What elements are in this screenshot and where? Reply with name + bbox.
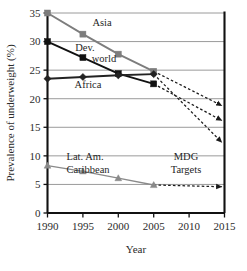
tick-label-y-15: 15 <box>30 121 42 133</box>
projection-line-lat-am-caribbean <box>154 185 222 187</box>
projection-line-dev-world <box>154 84 222 121</box>
tick-label-y-20: 20 <box>30 93 42 105</box>
series-label-africa: Africa <box>75 79 102 90</box>
tick-label-x-2015: 2015 <box>214 220 237 232</box>
data-point-dev-world-1995 <box>80 55 86 61</box>
series-label-dev-world-line2: world <box>92 53 117 64</box>
tick-label-x-1990: 1990 <box>37 220 60 232</box>
data-point-africa-1990 <box>44 75 51 82</box>
underweight-prevalence-chart: 05101520253035199019952000200520102015As… <box>0 0 247 271</box>
annotation-mdg-line2: Targets <box>171 164 202 175</box>
tick-label-y-5: 5 <box>35 178 41 190</box>
data-point-dev-world-2005 <box>151 81 157 87</box>
tick-label-x-2000: 2000 <box>107 220 130 232</box>
projection-line-asia <box>154 71 222 105</box>
chart-canvas: 05101520253035199019952000200520102015As… <box>0 0 247 271</box>
tick-label-y-35: 35 <box>30 7 42 19</box>
tick-label-x-2005: 2005 <box>143 220 166 232</box>
series-label-asia: Asia <box>92 17 112 28</box>
y-axis-title: Prevalence of underweight (%) <box>4 44 17 181</box>
series-label-dev-world-line1: Dev. <box>75 42 94 53</box>
data-point-asia-1990 <box>45 10 51 16</box>
projection-line-africa <box>154 74 222 142</box>
annotation-mdg-line1: MDG <box>174 151 199 162</box>
data-point-dev-world-1990 <box>45 39 51 45</box>
x-axis-title: Year <box>126 243 147 255</box>
tick-label-y-10: 10 <box>30 150 42 162</box>
tick-label-y-30: 30 <box>30 35 42 47</box>
data-point-asia-1995 <box>80 31 86 37</box>
series-label-latam-line2: Caribbean <box>66 164 110 175</box>
tick-label-y-0: 0 <box>35 207 41 219</box>
tick-label-x-2010: 2010 <box>178 220 201 232</box>
tick-label-y-25: 25 <box>30 64 42 76</box>
tick-label-x-1995: 1995 <box>72 220 95 232</box>
series-label-latam-line1: Lat. Am. <box>66 151 103 162</box>
data-point-lat-am-caribbean-1990 <box>44 162 51 168</box>
